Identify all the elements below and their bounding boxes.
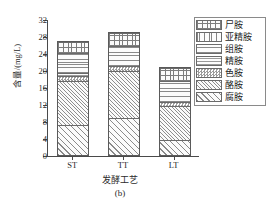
y-tick-label-wrap: 4 [0, 135, 47, 143]
y-tick-label-wrap: 0 [0, 152, 47, 160]
y-tick-label-wrap: 28 [0, 33, 47, 41]
legend-item: 亚精胺 [196, 31, 264, 43]
y-tick-label: 28 [27, 33, 47, 41]
x-axis-title: 发酵工艺 [40, 173, 200, 186]
bar-segment [109, 66, 139, 71]
legend-label: 精胺 [225, 56, 243, 66]
legend-swatch-icon [196, 20, 222, 30]
bar-segment [58, 76, 88, 82]
chart-legend: 尸胺亚精胺组胺精胺色胺酪胺腐胺 [194, 17, 266, 106]
y-tick-label: 8 [27, 118, 47, 126]
y-tick-label-wrap: 24 [0, 50, 47, 58]
bar-st [57, 41, 89, 156]
bar-segment [160, 106, 190, 140]
legend-swatch-icon [196, 56, 222, 66]
legend-item: 色胺 [196, 67, 264, 79]
bar-segment [109, 33, 139, 46]
y-tick-label-wrap: 16 [0, 84, 47, 92]
legend-label: 尸胺 [225, 20, 243, 30]
legend-item: 腐胺 [196, 91, 264, 103]
bar-segment [109, 118, 139, 155]
legend-item: 精胺 [196, 55, 264, 67]
y-tick-label: 0 [27, 152, 47, 160]
y-tick-label-wrap: 12 [0, 101, 47, 109]
y-tick-label-wrap: 20 [0, 67, 47, 75]
y-tick-label: 12 [27, 101, 47, 109]
bar-segment [109, 46, 139, 66]
legend-item: 组胺 [196, 43, 264, 55]
y-tick-label: 24 [27, 50, 47, 58]
bar-lt [159, 67, 191, 156]
legend-swatch-icon [196, 32, 222, 42]
y-tick-label: 32 [27, 16, 47, 24]
y-tick-label: 20 [27, 67, 47, 75]
y-tick-label: 4 [27, 135, 47, 143]
bar-segment [160, 81, 190, 101]
y-axis-title: 含量/(mg/L) [10, 26, 22, 106]
legend-swatch-icon [196, 92, 222, 102]
figure-subtitle: (b) [40, 188, 200, 198]
bar-segment [58, 81, 88, 125]
bar-segment [58, 53, 88, 73]
legend-label: 酪胺 [225, 80, 243, 90]
bar-segment [160, 68, 190, 82]
legend-item: 酪胺 [196, 79, 264, 91]
bar-segment [160, 140, 190, 155]
bar-segment [58, 73, 88, 76]
chart-figure: 048121620242832 含量/(mg/L) STTTLT 发酵工艺 (b… [0, 0, 268, 208]
legend-label: 色胺 [225, 68, 243, 78]
y-tick-label-wrap: 32 [0, 16, 47, 24]
bar-segment [58, 42, 88, 53]
y-tick-label: 16 [27, 84, 47, 92]
bar-segment [109, 71, 139, 117]
y-tick-label-wrap: 8 [0, 118, 47, 126]
x-tick-label-tt: TT [98, 160, 148, 170]
x-tick-label-lt: LT [149, 160, 199, 170]
legend-label: 腐胺 [225, 92, 243, 102]
bar-segment [160, 102, 190, 106]
legend-swatch-icon [196, 80, 222, 90]
legend-swatch-icon [196, 68, 222, 78]
x-tick-label-st: ST [47, 160, 97, 170]
legend-label: 组胺 [225, 44, 243, 54]
legend-item: 尸胺 [196, 19, 264, 31]
legend-label: 亚精胺 [225, 32, 252, 42]
plot-area [47, 20, 192, 156]
legend-swatch-icon [196, 44, 222, 54]
bar-tt [108, 32, 140, 156]
bar-segment [58, 125, 88, 155]
